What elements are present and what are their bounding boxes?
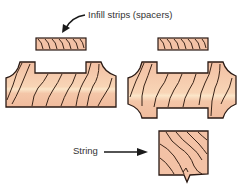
infill-strip-right	[158, 38, 208, 50]
infill-pointer-arrow	[62, 15, 85, 33]
string-pointer-arrow	[104, 148, 148, 156]
string-section	[159, 131, 208, 182]
joinery-diagram	[0, 0, 243, 187]
stair-piece-single-housed	[6, 62, 116, 107]
stair-piece-double-housed	[128, 62, 236, 118]
infill-strip-left	[36, 38, 86, 50]
